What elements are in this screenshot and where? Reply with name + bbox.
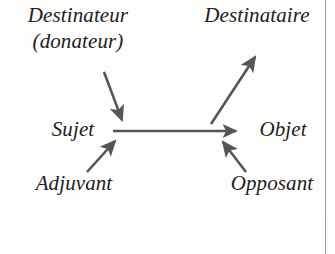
- actant-destinateur-label: Destinateur: [28, 3, 128, 27]
- actant-opposant: Opposant: [216, 172, 328, 195]
- diagram-bottom-margin: [0, 215, 325, 254]
- actant-objet: Objet: [248, 118, 318, 141]
- actant-destinateur: Destinateur (donateur): [8, 4, 148, 52]
- actantial-model-diagram: Destinateur (donateur) Destinataire Suje…: [0, 0, 335, 254]
- arrow-objet-to-destinataire: [211, 57, 255, 124]
- actant-destinateur-sublabel: (donateur): [8, 30, 148, 53]
- diagram-right-border: [325, 0, 326, 254]
- arrow-opposant-to-objet: [223, 142, 246, 172]
- actant-adjuvant: Adjuvant: [20, 172, 128, 195]
- actant-destinataire: Destinataire: [182, 4, 332, 27]
- arrow-destinateur-to-sujet: [104, 72, 122, 120]
- actant-sujet: Sujet: [38, 118, 108, 141]
- arrow-adjuvant-to-sujet: [87, 141, 115, 172]
